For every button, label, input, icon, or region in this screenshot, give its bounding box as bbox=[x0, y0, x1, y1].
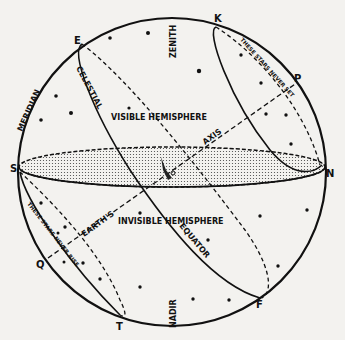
label-meridian: MERIDIAN bbox=[16, 88, 43, 133]
label-never-set: THESE STARS NEVER SET bbox=[239, 37, 295, 99]
point-e: E bbox=[74, 35, 81, 46]
label-visible-hemisphere: VISIBLE HEMISPHERE bbox=[111, 113, 207, 122]
celestial-sphere-diagram: E K P S N Q T F ZENITH NADIR MERIDIAN CE… bbox=[0, 0, 345, 340]
label-earths: EARTH'S bbox=[80, 209, 116, 239]
label-nadir: NADIR bbox=[169, 299, 178, 328]
point-q: Q bbox=[36, 259, 45, 270]
point-k: K bbox=[214, 13, 223, 24]
point-p: P bbox=[294, 73, 301, 84]
point-f: F bbox=[256, 299, 263, 310]
point-t: T bbox=[116, 321, 123, 332]
label-never-rise: THESE STARS NEVER RISE bbox=[26, 201, 80, 268]
point-s: S bbox=[10, 163, 17, 174]
point-n: N bbox=[326, 168, 334, 179]
label-zenith: ZENITH bbox=[169, 25, 178, 58]
label-celestial: CELESTIAL bbox=[74, 65, 104, 111]
label-invisible-hemisphere: INVISIBLE HEMISPHERE bbox=[118, 217, 224, 226]
